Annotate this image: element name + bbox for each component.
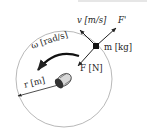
central-hub xyxy=(53,71,74,90)
force-label: F [N] xyxy=(80,64,103,73)
angular-velocity-arrow xyxy=(38,54,79,70)
reaction-force-label: F' xyxy=(118,16,126,25)
mass-point xyxy=(93,43,99,49)
mass-label: m [kg] xyxy=(104,43,132,52)
velocity-label: v [m/s] xyxy=(77,16,106,25)
